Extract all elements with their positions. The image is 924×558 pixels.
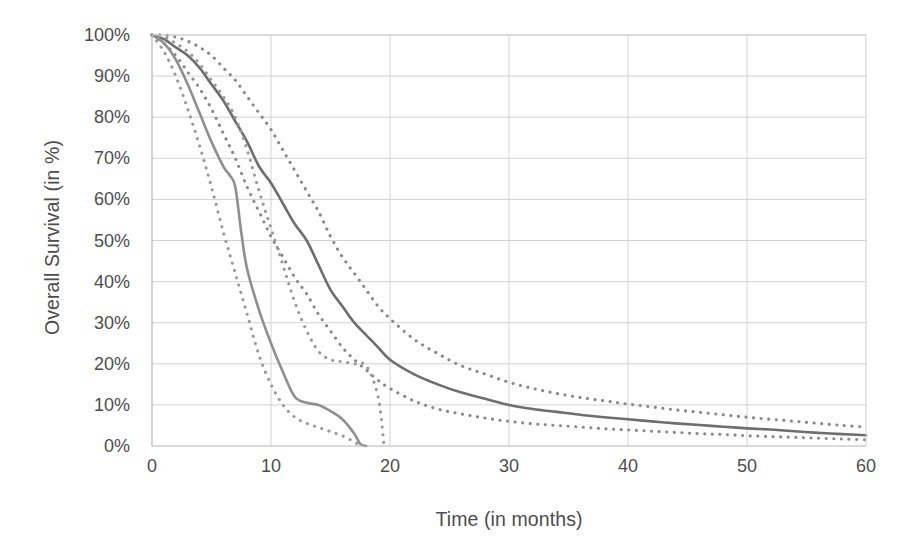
survival-chart: Overall Survival (in %) Time (in months)… bbox=[0, 0, 924, 558]
gridlines bbox=[152, 35, 866, 446]
plot-area bbox=[0, 0, 924, 558]
